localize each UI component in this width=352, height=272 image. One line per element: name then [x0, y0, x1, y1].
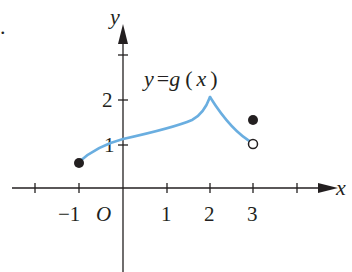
curve-right-branch	[210, 97, 253, 143]
y-axis-label: y	[108, 4, 120, 29]
closed-dot-start	[74, 158, 84, 168]
y-tick-label-2: 2	[102, 88, 113, 112]
corner-mark: .	[0, 14, 6, 39]
closed-dot-x3	[248, 115, 258, 125]
open-dot-x3	[249, 140, 258, 149]
x-tick-label-3: 3	[247, 202, 258, 226]
graph-canvas: . −1 O 1 2 3 1 2 x y y=g(x)	[0, 0, 352, 272]
x-tick-label-minus1: −1	[58, 202, 80, 226]
x-axis-label: x	[335, 175, 346, 200]
x-tick-label-1: 1	[161, 202, 172, 226]
x-tick-label-2: 2	[204, 202, 215, 226]
x-axis-arrow-icon	[318, 183, 338, 193]
curve-left-branch	[79, 97, 210, 162]
origin-label: O	[96, 202, 111, 226]
function-label: y=g(x)	[142, 66, 218, 91]
